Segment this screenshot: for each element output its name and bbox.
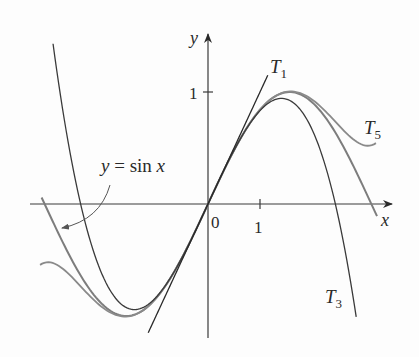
sine-label-y: y <box>99 155 110 176</box>
t5-label-sub: 5 <box>375 127 382 142</box>
x-axis-label: x <box>380 210 389 230</box>
t5-label: T5 <box>364 117 381 142</box>
t3-label-sub: 3 <box>336 296 343 311</box>
y-tick-1-label: 1 <box>189 84 198 103</box>
taylor-polynomials-sine-chart: y x 0 1 1 y = sin x T1 T5 T3 <box>0 0 419 357</box>
sine-label-x: x <box>156 155 166 176</box>
t1-label-sub: 1 <box>281 66 288 81</box>
t3-curve <box>53 44 356 317</box>
y-axis-label: y <box>188 28 198 48</box>
sine-label-arrow <box>62 185 110 228</box>
t1-label: T1 <box>270 56 287 81</box>
sine-label-eq: = sin <box>109 155 156 176</box>
origin-label: 0 <box>211 213 220 232</box>
plot-area: y x 0 1 1 y = sin x T1 T5 T3 <box>0 0 419 357</box>
sine-label: y = sin x <box>99 155 166 176</box>
t3-label: T3 <box>325 286 342 311</box>
x-tick-1-label: 1 <box>254 218 263 237</box>
